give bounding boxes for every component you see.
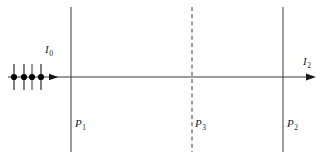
particle-marker-1	[11, 74, 17, 80]
plane-label-p3-subscript: 3	[202, 123, 206, 132]
incident-beam-label: I0	[45, 44, 52, 55]
particle-marker-3	[29, 74, 35, 80]
incident-beam-subscript: 0	[49, 49, 53, 58]
beam-axis-arrowhead-icon	[306, 73, 316, 80]
plane-lines	[71, 7, 283, 152]
plane-label-p2: P2	[287, 118, 297, 129]
plane-label-p3-symbol: P	[195, 117, 202, 129]
figure-container: I0 I2 P1 P3 P2	[0, 0, 321, 161]
plane-label-p2-symbol: P	[287, 117, 294, 129]
beam-diagram-canvas	[0, 0, 321, 161]
plane-label-p1: P1	[75, 118, 85, 129]
plane-label-p1-symbol: P	[75, 117, 82, 129]
outgoing-beam-subscript: 2	[307, 61, 311, 70]
outgoing-beam-label: I2	[303, 56, 310, 67]
particle-marker-2	[21, 74, 27, 80]
plane-label-p3: P3	[195, 118, 205, 129]
incident-beam-arrowhead-icon	[49, 74, 58, 80]
plane-label-p1-subscript: 1	[82, 123, 86, 132]
particle-marker-4	[38, 74, 44, 80]
plane-label-p2-subscript: 2	[294, 123, 298, 132]
